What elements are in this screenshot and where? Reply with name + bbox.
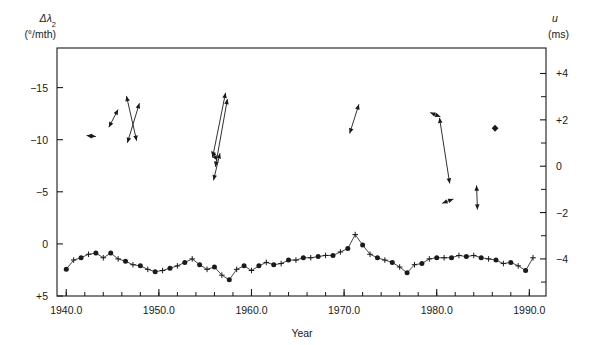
- data-point-circle: [227, 277, 232, 282]
- right-tick-label: −4: [556, 253, 568, 265]
- data-point-circle: [256, 263, 261, 268]
- data-point-circle: [479, 255, 484, 260]
- right-axis-symbol: u: [552, 12, 558, 24]
- data-point-circle: [79, 255, 84, 260]
- data-point-circle: [449, 255, 454, 260]
- data-point-circle: [167, 266, 172, 271]
- data-point-circle: [316, 254, 321, 259]
- data-point-circle: [197, 262, 202, 267]
- right-tick-label: +2: [556, 114, 568, 126]
- chart-background: [0, 0, 604, 345]
- data-point-circle: [360, 243, 365, 248]
- data-point-circle: [93, 251, 98, 256]
- x-tick-label: 1990.0: [513, 304, 545, 316]
- left-tick-label: −5: [36, 186, 48, 198]
- data-point-circle: [108, 251, 113, 256]
- right-axis-units: (ms): [548, 28, 569, 40]
- data-point-circle: [493, 258, 498, 263]
- data-point-circle: [286, 258, 291, 263]
- data-point-circle: [405, 270, 410, 275]
- data-point-circle: [434, 255, 439, 260]
- data-point-circle: [182, 260, 187, 265]
- x-tick-label: 1940.0: [50, 304, 82, 316]
- left-tick-label: −15: [30, 82, 48, 94]
- right-tick-label: +4: [556, 67, 568, 79]
- x-axis-title: Year: [291, 327, 313, 339]
- data-point-circle: [301, 255, 306, 260]
- data-point-circle: [464, 254, 469, 259]
- data-point-circle: [345, 246, 350, 251]
- data-point-circle: [212, 265, 217, 270]
- figure-canvas: Δλ2 (°/mth) u (ms) −15−10−50+5 +4+20−2−4…: [0, 0, 604, 345]
- right-tick-label: 0: [556, 160, 562, 172]
- left-tick-label: 0: [42, 238, 48, 250]
- data-point-circle: [242, 263, 247, 268]
- data-point-circle: [390, 260, 395, 265]
- data-point-circle: [64, 267, 69, 272]
- x-tick-label: 1980.0: [421, 304, 453, 316]
- data-point-circle: [508, 260, 513, 265]
- data-point-circle: [271, 262, 276, 267]
- data-point-circle: [523, 268, 528, 273]
- left-tick-label: −10: [30, 134, 48, 146]
- x-tick-label: 1950.0: [143, 304, 175, 316]
- scientific-chart: Δλ2 (°/mth) u (ms) −15−10−50+5 +4+20−2−4…: [0, 0, 604, 345]
- data-point-circle: [419, 261, 424, 266]
- right-tick-label: −2: [556, 207, 568, 219]
- data-point-circle: [330, 253, 335, 258]
- data-point-circle: [375, 255, 380, 260]
- x-tick-label: 1970.0: [328, 304, 360, 316]
- data-point-circle: [138, 263, 143, 268]
- data-point-circle: [153, 269, 158, 274]
- left-tick-label: +5: [36, 290, 48, 302]
- left-axis-units: (°/mth): [24, 28, 56, 40]
- x-tick-label: 1960.0: [235, 304, 267, 316]
- data-point-circle: [123, 259, 128, 264]
